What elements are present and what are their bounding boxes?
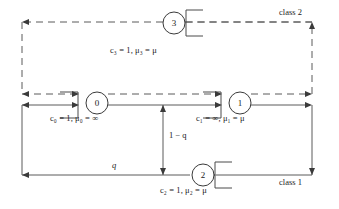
queueing-network-figure: 3 0 1 2 c₃ = 1, μ₃ = μ c₀ = 1, μ₀ = ∞ c₁…: [0, 0, 339, 209]
arrowhead-class2-topright: [309, 22, 315, 29]
arrowhead-class1-leftmid: [22, 102, 29, 108]
node-0-label: 0: [95, 98, 100, 108]
edge-label-q: q: [112, 160, 116, 170]
node-3-params: c₃ = 1, μ₃ = μ: [110, 45, 157, 55]
class-2-label: class 2: [279, 7, 302, 17]
node-3-queue-bracket: [186, 10, 203, 36]
arrowhead-class1-bottomleft: [22, 172, 29, 178]
node-1-params: c₁ = ∞, μ₁ = μ: [196, 113, 245, 123]
node-2-label: 2: [201, 170, 206, 180]
node-0-params: c₀ = 1, μ₀ = ∞: [50, 113, 98, 123]
class-1-label: class 1: [279, 177, 302, 187]
edge-label-one-minus-q: 1 − q: [169, 130, 187, 140]
arrowhead-class2-topleft: [22, 19, 29, 25]
arrowhead-class2-right-mid: [305, 91, 312, 97]
node-3-label: 3: [172, 18, 177, 28]
arrowhead-class1-right-mid: [305, 102, 312, 108]
arrowhead-class2-leftmid: [22, 91, 29, 97]
node-3-group[interactable]: 3: [163, 10, 203, 36]
class2-dashed-path: [22, 22, 312, 94]
node-2-params: c₂ = 1, μ₂ = μ: [160, 185, 207, 195]
arrowhead-branch-down: [160, 105, 166, 112]
arrowhead-class1-bottomright: [309, 168, 315, 175]
node-1-label: 1: [238, 98, 243, 108]
arrowhead-branch-bottom: [160, 168, 166, 175]
